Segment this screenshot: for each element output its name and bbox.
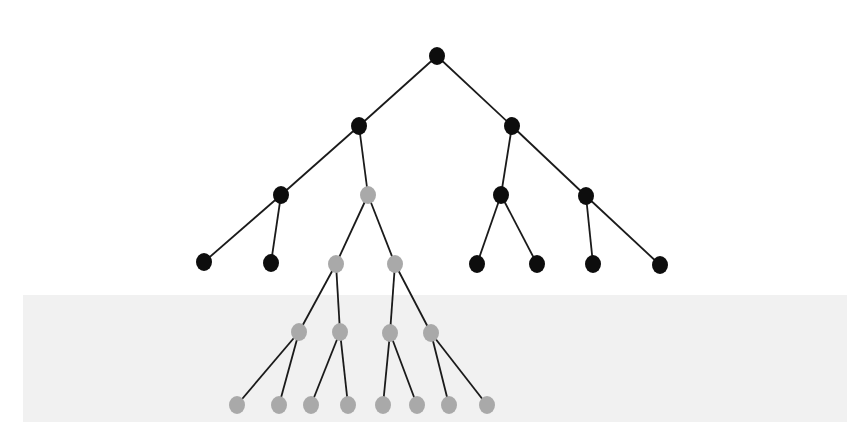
tree-node-gray [441, 396, 457, 414]
tree-node-gray [303, 396, 319, 414]
tree-node-gray [375, 396, 391, 414]
tree-node-black [429, 47, 445, 65]
tree-node-black [196, 253, 212, 271]
tree-edge [359, 126, 368, 195]
tree-edge [437, 56, 512, 126]
tree-node-gray [271, 396, 287, 414]
shaded-band [23, 295, 847, 422]
tree-node-black [652, 256, 668, 274]
tree-edge [368, 195, 395, 264]
tree-node-black [578, 187, 594, 205]
tree-node-gray [360, 186, 376, 204]
tree-edge [512, 126, 586, 196]
tree-node-gray [340, 396, 356, 414]
tree-node-black [263, 254, 279, 272]
tree-node-gray [409, 396, 425, 414]
tree-edge [477, 195, 501, 264]
tree-node-gray [387, 255, 403, 273]
tree-node-black [493, 186, 509, 204]
tree-node-gray [332, 323, 348, 341]
tree-node-black [504, 117, 520, 135]
tree-node-gray [423, 324, 439, 342]
tree-edge [586, 196, 660, 265]
tree-edge [204, 195, 281, 262]
tree-edge [281, 126, 359, 195]
tree-edge [271, 195, 281, 263]
tree-edge [501, 126, 512, 195]
tree-node-gray [328, 255, 344, 273]
tree-node-black [273, 186, 289, 204]
tree-node-gray [382, 324, 398, 342]
tree-diagram [0, 0, 865, 445]
tree-node-gray [229, 396, 245, 414]
tree-node-black [469, 255, 485, 273]
tree-node-gray [291, 323, 307, 341]
tree-edge [586, 196, 593, 264]
tree-edge [501, 195, 537, 264]
tree-node-black [351, 117, 367, 135]
tree-node-gray [479, 396, 495, 414]
tree-node-black [529, 255, 545, 273]
tree-edge [336, 195, 368, 264]
tree-node-black [585, 255, 601, 273]
tree-edge [359, 56, 437, 126]
